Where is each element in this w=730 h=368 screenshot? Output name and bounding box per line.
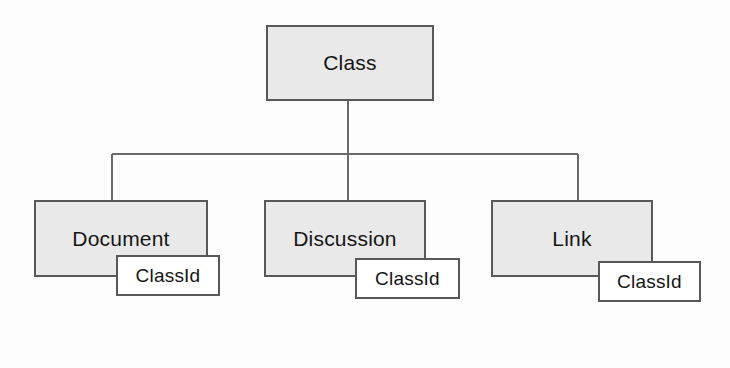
node-link-label: Link	[552, 227, 591, 251]
class-hierarchy-diagram: Class Document ClassId Discussion ClassI…	[0, 0, 730, 368]
attribute-document-classid-label: ClassId	[136, 265, 201, 287]
node-discussion-label: Discussion	[293, 227, 397, 251]
attribute-discussion-classid-label: ClassId	[375, 268, 440, 290]
node-document-label: Document	[72, 227, 169, 251]
node-class[interactable]: Class	[266, 25, 434, 101]
attribute-document-classid[interactable]: ClassId	[116, 255, 220, 296]
attribute-link-classid[interactable]: ClassId	[598, 261, 701, 302]
node-class-label: Class	[323, 51, 377, 75]
attribute-link-classid-label: ClassId	[617, 271, 682, 293]
attribute-discussion-classid[interactable]: ClassId	[355, 258, 460, 299]
